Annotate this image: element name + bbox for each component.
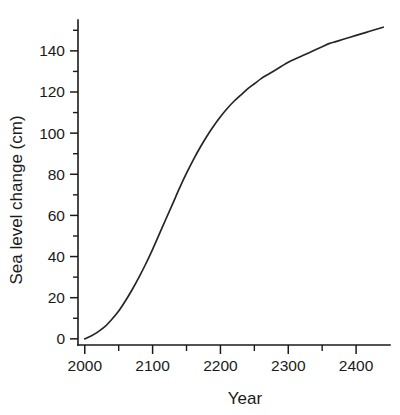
chart-canvas: 020406080100120140 20002100220023002400 … <box>0 0 400 415</box>
y-axis-tick-label: 20 <box>48 289 66 306</box>
x-axis-tick-label: 2100 <box>135 357 170 374</box>
x-axis-tick-labels: 20002100220023002400 <box>68 357 374 374</box>
x-axis-tick-label: 2300 <box>271 357 306 374</box>
y-axis-tick-label: 60 <box>48 207 66 224</box>
sea-level-curve <box>85 27 383 339</box>
y-axis-title: Sea level change (cm) <box>7 115 26 284</box>
y-axis-tick-label: 140 <box>39 42 65 59</box>
x-axis-major-ticks <box>85 345 356 354</box>
y-axis-tick-label: 120 <box>39 83 65 100</box>
x-axis-tick-label: 2200 <box>203 357 238 374</box>
y-axis-tick-label: 0 <box>56 330 65 347</box>
x-axis-tick-label: 2000 <box>68 357 103 374</box>
y-axis-tick-labels: 020406080100120140 <box>39 42 65 347</box>
y-axis-tick-label: 100 <box>39 125 65 142</box>
sea-level-chart-figure: 020406080100120140 20002100220023002400 … <box>0 0 400 415</box>
x-axis-title: Year <box>228 389 263 408</box>
x-axis-tick-label: 2400 <box>339 357 374 374</box>
y-axis-tick-label: 80 <box>48 166 66 183</box>
y-axis-tick-label: 40 <box>48 248 66 265</box>
